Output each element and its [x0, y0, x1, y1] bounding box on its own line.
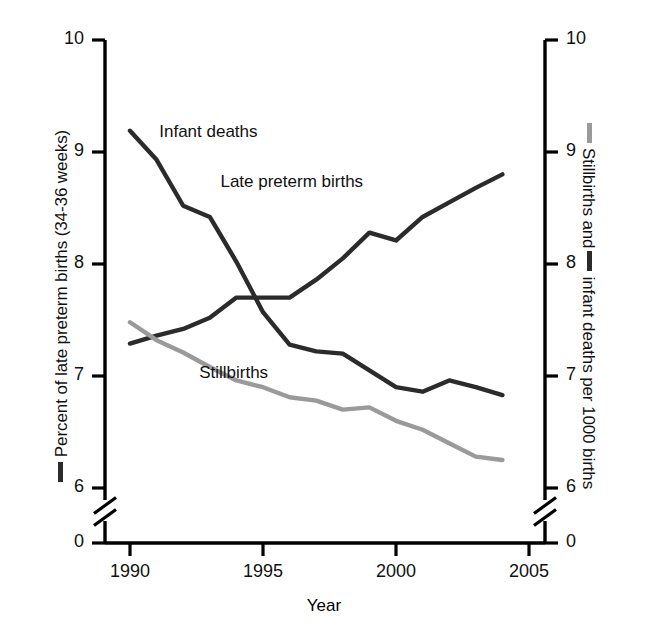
- x-tick-label-2000: 2000: [361, 561, 431, 582]
- y-tick-label-right-10: 10: [566, 28, 606, 49]
- y-tick-label-left-8: 8: [44, 252, 84, 273]
- y-tick-label-right-8: 8: [566, 252, 606, 273]
- series-line-stillbirths: [130, 322, 502, 460]
- x-axis-title: Year: [0, 596, 648, 616]
- y-tick-label-left-10: 10: [44, 28, 84, 49]
- y-tick-label-left-7: 7: [44, 364, 84, 385]
- x-tick-label-2005: 2005: [494, 561, 564, 582]
- x-tick-label-1990: 1990: [95, 561, 165, 582]
- y-axis-right-title-text-1: Stillbirths and: [579, 148, 598, 249]
- y-tick-label-right-0: 0: [566, 531, 606, 552]
- y-tick-label-right-7: 7: [566, 364, 606, 385]
- series-label-late-preterm-births: Late preterm births: [220, 172, 363, 192]
- y-tick-label-right-9: 9: [566, 140, 606, 161]
- y-tick-label-right-6: 6: [566, 476, 606, 497]
- series-label-infant-deaths: Infant deaths: [159, 122, 257, 142]
- series-label-stillbirths: Stillbirths: [199, 363, 268, 383]
- y-tick-label-left-0: 0: [44, 531, 84, 552]
- x-tick-label-1995: 1995: [228, 561, 298, 582]
- y-axis-left-title-text: Percent of late preterm births (34-36 we…: [52, 130, 71, 457]
- chart-plot-area: [0, 0, 648, 632]
- y-tick-label-left-9: 9: [44, 140, 84, 161]
- series-line-late-preterm-births: [130, 174, 502, 343]
- y-tick-label-left-6: 6: [44, 476, 84, 497]
- chart-figure: Percent of late preterm births (34-36 we…: [0, 0, 648, 632]
